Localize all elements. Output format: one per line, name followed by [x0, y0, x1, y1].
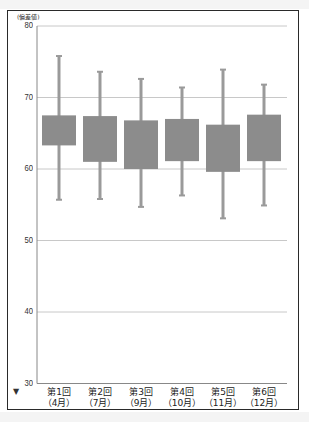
- y-tick-label: 70: [16, 92, 33, 102]
- x-tick-label: 第6回（12月）: [243, 387, 285, 409]
- box-plot: [0, 0, 309, 422]
- x-tick-label: 第5回（11月）: [202, 387, 244, 409]
- y-tick-label: 50: [16, 235, 33, 245]
- box-4: [165, 119, 199, 161]
- box-1: [42, 115, 76, 145]
- x-tick-label: 第3回（9月）: [120, 387, 162, 409]
- x-tick-label: 第4回（10月）: [161, 387, 203, 409]
- y-tick-label: 80: [16, 20, 33, 30]
- y-tick-label: 60: [16, 163, 33, 173]
- x-tick-label: 第2回（7月）: [79, 387, 121, 409]
- y-tick-label: 40: [16, 306, 33, 316]
- box-3: [124, 120, 158, 169]
- box-2: [83, 116, 117, 162]
- y-tick-label: 30: [16, 378, 33, 388]
- x-tick-label: 第1回（4月）: [38, 387, 80, 409]
- box-5: [206, 125, 240, 172]
- box-6: [247, 115, 281, 161]
